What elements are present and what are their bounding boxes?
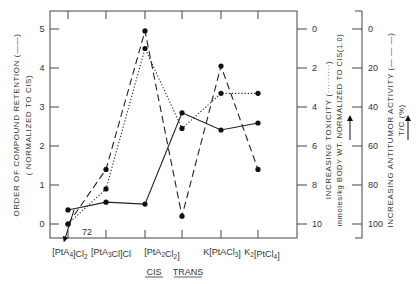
data-point: [255, 167, 260, 172]
toxicity-tick-label: 6: [312, 141, 317, 151]
toxicity-tick-label: 8: [312, 180, 317, 190]
left-tick-label: 5: [39, 24, 44, 34]
data-point: [179, 214, 184, 219]
data-point: [179, 126, 184, 131]
toxicity-axis-sublabel: mmoles/kg BODY WT. NORMALIZED TO CIS(1.0…: [335, 34, 344, 227]
antitumor-axis-label: INCREASING ANTITUMOR ACTIVITY (— — —): [386, 33, 395, 228]
antitumor-tick-label: 20: [368, 63, 378, 73]
series-dotted-line: [68, 49, 258, 225]
antitumor-axis-ticks: 020406080100: [352, 24, 383, 229]
data-point: [142, 28, 147, 33]
toxicity-axis-title: INCREASING TOXICITY (·········): [324, 61, 333, 200]
series-solid-line: [68, 113, 258, 210]
data-point: [218, 63, 223, 68]
left-axis-sublabel: ( NORMALIZED TO CIS): [24, 75, 33, 176]
data-point: [142, 202, 147, 207]
toxicity-tick-label: 0: [312, 24, 317, 34]
data-point: [103, 200, 108, 205]
data-point: [142, 46, 147, 51]
cis-label: CIS: [146, 267, 161, 277]
toxicity-axis-label: INCREASING TOXICITY (·········): [324, 61, 333, 200]
series-dashed-line: [68, 31, 258, 224]
data-point: [255, 91, 260, 96]
left-axis-ticks: 012345: [39, 24, 59, 229]
left-axis-label: ORDER OF COMPOUND RETENTION (——): [12, 33, 21, 216]
data-point: [65, 221, 70, 226]
antitumor-tick-label: 60: [368, 141, 378, 151]
left-tick-label: 0: [39, 219, 44, 229]
data-point: [218, 127, 223, 132]
left-axis-subtitle: ( NORMALIZED TO CIS): [24, 75, 33, 176]
trans-label: TRANS: [173, 267, 204, 277]
category-labels: [PtA4]Cl2[PtA3Cl]Cl[PtA2Cl2]K[PtACl3]K2[…: [52, 247, 279, 261]
category-label: [PtA3Cl]Cl: [91, 247, 131, 259]
data-point: [65, 207, 70, 212]
series-layer: 72: [65, 28, 261, 239]
toxicity-axis-subtitle: mmoles/kg BODY WT. NORMALIZED TO CIS(1.0…: [335, 34, 344, 227]
left-axis-title: ORDER OF COMPOUND RETENTION (——): [12, 33, 21, 216]
data-point: [103, 167, 108, 172]
category-label: [PtA2Cl2]: [144, 247, 179, 261]
toxicity-tick-label: 4: [312, 102, 317, 112]
antitumor-axis-title: INCREASING ANTITUMOR ACTIVITY (— — —): [386, 33, 395, 228]
data-point: [218, 91, 223, 96]
left-tick-label: 4: [39, 63, 44, 73]
antitumor-axis-subtitle: T/C (%): [397, 104, 406, 136]
left-tick-label: 1: [39, 180, 44, 190]
category-label: K[PtACl3]: [203, 247, 241, 259]
data-point: [179, 110, 184, 115]
left-tick-label: 2: [39, 141, 44, 151]
chart-canvas: 012345 0246810 020406080100 72 ORDER OF …: [0, 0, 419, 284]
toxicity-axis-ticks: 0246810: [297, 24, 322, 229]
antitumor-tick-label: 40: [368, 102, 378, 112]
offscale-annotation: 72: [82, 227, 92, 237]
antitumor-tick-label: 0: [368, 24, 373, 34]
left-tick-label: 3: [39, 102, 44, 112]
antitumor-tick-label: 80: [368, 180, 378, 190]
data-point: [255, 120, 260, 125]
antitumor-axis-sublabel: T/C (%): [397, 104, 406, 136]
toxicity-tick-label: 2: [312, 63, 317, 73]
toxicity-tick-label: 10: [312, 219, 322, 229]
data-point: [103, 186, 108, 191]
antitumor-tick-label: 100: [368, 219, 383, 229]
category-label: K2[PtCl4]: [244, 247, 279, 261]
category-label: [PtA4]Cl2: [52, 247, 88, 260]
